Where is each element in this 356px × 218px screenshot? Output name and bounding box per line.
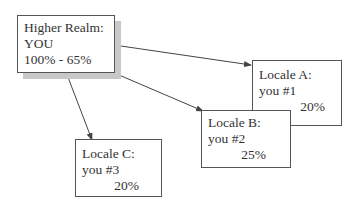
locale-c-box: Locale C: you #3 20% <box>75 139 162 197</box>
locale-b-value: 25% <box>208 147 284 163</box>
root-title: Higher Realm: <box>24 20 108 36</box>
locale-b-title: Locale B: <box>208 115 284 131</box>
locale-c-label: you #3 <box>82 162 155 178</box>
arrow-to-locale-c <box>66 72 92 140</box>
locale-c-value: 20% <box>82 178 155 194</box>
arrow-to-locale-b <box>112 72 203 111</box>
locale-b-label: you #2 <box>208 131 284 147</box>
root-subtitle: YOU <box>24 36 108 52</box>
locale-a-title: Locale A: <box>259 67 335 83</box>
locale-b-box: Locale B: you #2 25% <box>201 110 291 168</box>
arrow-to-locale-a <box>114 45 251 65</box>
higher-realm-box: Higher Realm: YOU 100% - 65% <box>17 15 115 73</box>
locale-c-title: Locale C: <box>82 146 155 162</box>
root-range: 100% - 65% <box>24 52 108 68</box>
locale-a-label: you #1 <box>259 83 335 99</box>
